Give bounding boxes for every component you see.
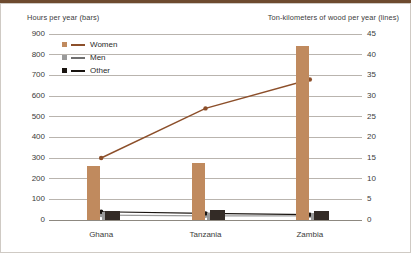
right-axis-tick: 20 (367, 133, 376, 141)
chart-legend: WomenMenOther (62, 38, 117, 77)
scan-top-band (0, 0, 411, 3)
legend-item-men: Men (62, 51, 117, 64)
right-axis-tick: 45 (367, 30, 376, 38)
category-tick-zambia: Zambia (296, 230, 323, 239)
left-axis-tick: 700 (32, 71, 45, 79)
category-tick-tanzania: Tanzania (189, 230, 221, 239)
right-axis-tick: 5 (367, 195, 371, 203)
right-axis-tick: 25 (367, 113, 376, 121)
left-axis-tick: 500 (32, 113, 45, 121)
legend-swatch-icon (62, 68, 67, 73)
left-axis-tick: 100 (32, 195, 45, 203)
legend-swatch-icon (62, 55, 67, 60)
right-axis-tick: 30 (367, 92, 376, 100)
line-series-women (101, 79, 310, 158)
legend-label: Men (90, 53, 106, 62)
legend-swatch-icon (62, 42, 67, 47)
bar (105, 211, 120, 220)
bar (210, 210, 225, 220)
left-axis-tick: 800 (32, 51, 45, 59)
right-axis-caption: Ton-kilometers of wood per year (lines) (268, 13, 399, 22)
left-axis-tick: 900 (32, 30, 45, 38)
legend-label: Women (90, 40, 117, 49)
right-axis-tick: 35 (367, 71, 376, 79)
legend-label: Other (90, 66, 110, 75)
bar (87, 166, 100, 220)
data-point (203, 106, 207, 110)
legend-item-women: Women (62, 38, 117, 51)
left-axis-tick: 600 (32, 92, 45, 100)
left-axis-tick: 400 (32, 133, 45, 141)
legend-line-icon (71, 70, 85, 72)
chart-figure: Hours per year (bars) Ton-kilometers of … (0, 0, 411, 253)
right-axis-tick: 15 (367, 154, 376, 162)
left-axis-caption: Hours per year (bars) (27, 13, 99, 22)
bar (296, 46, 309, 220)
bar (314, 211, 329, 220)
legend-line-icon (71, 44, 85, 46)
left-axis-tick: 0 (41, 216, 45, 224)
legend-line-icon (71, 57, 85, 59)
data-point (99, 156, 103, 160)
right-axis-tick: 0 (367, 216, 371, 224)
right-axis-tick: 40 (367, 51, 376, 59)
category-tick-ghana: Ghana (89, 230, 113, 239)
right-axis-tick: 10 (367, 175, 376, 183)
legend-item-other: Other (62, 64, 117, 77)
left-axis-tick: 300 (32, 154, 45, 162)
bar (192, 163, 205, 220)
left-axis-tick: 200 (32, 175, 45, 183)
